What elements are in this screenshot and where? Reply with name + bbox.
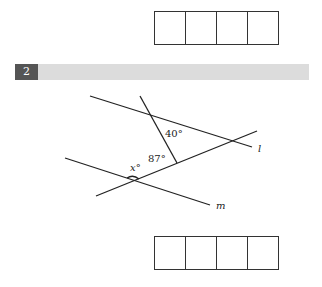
transversal-line [96,131,257,196]
angle-87-label: 87° [148,153,166,164]
answer-cell[interactable] [155,237,186,269]
angle-x-label: x° [130,162,141,173]
answer-grid-bottom[interactable] [154,236,279,270]
line-m-label: m [216,200,225,211]
angle-40-label: 40° [165,128,183,139]
answer-cell[interactable] [186,237,217,269]
answer-cell[interactable] [217,237,248,269]
answer-cell[interactable] [248,237,278,269]
line-l [90,96,252,147]
line-l-label: l [258,143,261,154]
